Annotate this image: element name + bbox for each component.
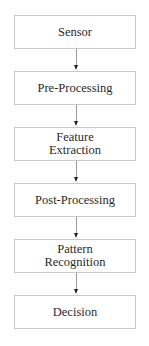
node-label-line-1: Pattern: [57, 242, 92, 256]
edge-pre-processing-to-feature-extraction: [76, 105, 77, 122]
node-label: Pre-Processing: [38, 82, 113, 95]
node-decision: Decision: [14, 295, 136, 329]
node-pre-processing: Pre-Processing: [14, 71, 136, 105]
edge-post-processing-to-pattern-recognition: [76, 217, 77, 234]
node-label: Post-Processing: [35, 194, 115, 207]
arrowhead-icon: [74, 65, 78, 70]
edge-sensor-to-pre-processing: [76, 49, 77, 66]
edge-pattern-recognition-to-decision: [76, 273, 77, 290]
node-feature-extraction: Feature Extraction: [14, 127, 136, 161]
arrowhead-icon: [74, 289, 78, 294]
node-label: Sensor: [58, 26, 92, 39]
edge-feature-extraction-to-post-processing: [76, 161, 77, 178]
arrowhead-icon: [74, 177, 78, 182]
node-label-line-1: Feature: [56, 130, 93, 144]
node-label-line-2: Recognition: [44, 255, 105, 269]
node-sensor: Sensor: [14, 15, 136, 49]
node-label-line-2: Extraction: [49, 143, 101, 157]
node-pattern-recognition: Pattern Recognition: [14, 239, 136, 273]
arrowhead-icon: [74, 233, 78, 238]
node-post-processing: Post-Processing: [14, 183, 136, 217]
node-label: Decision: [53, 306, 97, 319]
arrowhead-icon: [74, 121, 78, 126]
